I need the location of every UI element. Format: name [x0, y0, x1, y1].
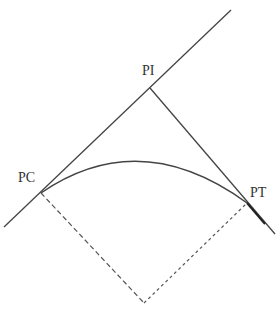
horizontal-curve-diagram: PI PC PT	[0, 0, 277, 328]
curve-tangent-overlap	[247, 203, 265, 224]
label-pi: PI	[142, 64, 154, 78]
radius-pc-dashed	[41, 193, 144, 303]
back-tangent-line	[4, 10, 231, 227]
label-pt: PT	[250, 186, 266, 200]
radius-pt-dashed	[144, 203, 247, 303]
label-pc: PC	[18, 171, 35, 185]
circular-curve-arc	[41, 161, 247, 203]
forward-tangent-line	[150, 88, 275, 234]
diagram-svg	[0, 0, 277, 328]
